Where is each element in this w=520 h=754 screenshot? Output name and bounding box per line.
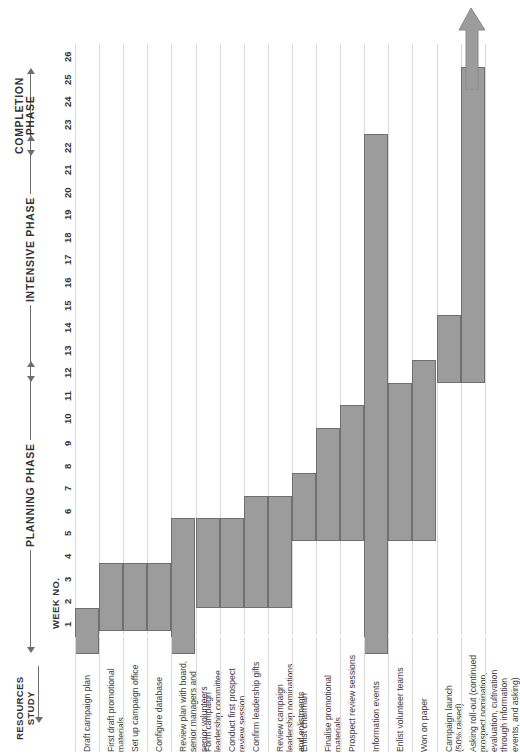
gridline [147, 44, 148, 635]
label-leader-line [268, 637, 269, 752]
task-label-line: materials [333, 640, 343, 752]
task-label: Enlist chairman [299, 640, 309, 752]
label-leader-line [364, 637, 365, 752]
task-label-line: senior managers and [189, 640, 199, 752]
gridline [340, 44, 341, 635]
task-label-line: Prospect review sessions [347, 640, 357, 752]
gantt-bar [461, 67, 485, 383]
up-arrow-icon [456, 4, 486, 90]
gantt-bar [244, 496, 268, 609]
label-leader-line [485, 637, 486, 752]
resources-study-arrow-line [38, 666, 39, 718]
label-leader-line [244, 637, 245, 752]
task-label-line: prospect nomination, [478, 640, 488, 752]
task-label-line: (50% raised) [454, 640, 464, 752]
task-label-line: through information [499, 640, 509, 752]
task-label: Information events [371, 640, 381, 752]
task-label-line: Finalise promotional [323, 640, 333, 752]
resources-study-line: RESOURCES [14, 677, 25, 740]
gantt-bar [220, 518, 244, 608]
task-label-line: Review campaign [275, 640, 285, 752]
label-leader-line [316, 637, 317, 752]
gridline [75, 44, 76, 635]
task-label-line: Enlist volunteer teams [395, 640, 405, 752]
task-label-line: Information events [371, 640, 381, 752]
task-label-line: events, and asking) [509, 640, 519, 752]
task-label-line: Campaign launch [444, 640, 454, 752]
task-label: Configure database [154, 640, 164, 752]
label-leader-line [123, 637, 124, 752]
task-label-line: Won on paper [419, 640, 429, 752]
label-leader-line [292, 637, 293, 752]
task-label-line: Set up campaign office [130, 640, 140, 752]
label-leader-line [412, 637, 413, 752]
task-label-line: First draft promotional [106, 640, 116, 752]
label-leader-line [461, 637, 462, 752]
gridline [316, 44, 317, 635]
label-leader-line [437, 637, 438, 752]
label-leader-line [196, 637, 197, 752]
label-leader-line [340, 637, 341, 752]
task-label: Enlist volunteer teams [395, 640, 405, 752]
gantt-bar [388, 383, 412, 541]
gantt-bar [196, 518, 220, 608]
label-leader-line [99, 637, 100, 752]
task-label-line: Review plan with board, [178, 640, 188, 752]
task-label-line: materials [117, 640, 127, 752]
gridline [388, 44, 389, 635]
task-label: Asking roll-out (continuedprospect nomin… [468, 640, 520, 752]
gridline [292, 44, 293, 635]
task-label: Set up campaign office [130, 640, 140, 752]
task-label: Won on paper [419, 640, 429, 752]
task-label-line: evaluation, cultivation [488, 640, 498, 752]
label-leader-line [220, 637, 221, 752]
gantt-bar [123, 563, 147, 631]
gantt-bar [171, 518, 195, 653]
gantt-bar [364, 134, 388, 653]
gridline [412, 44, 413, 635]
gantt-bar [437, 315, 461, 383]
task-label-line: Confirm leadership gifts [251, 640, 261, 752]
gridline [123, 44, 124, 635]
down-arrow-icon [35, 717, 43, 723]
task-label-line: leadership nominations [285, 640, 295, 752]
gridline [99, 44, 100, 635]
label-leader-line [147, 637, 148, 752]
task-label-line: Configure database [154, 640, 164, 752]
task-label-line: Enlist chairman [299, 640, 309, 752]
gantt-bar [292, 473, 316, 541]
task-label-line: Draft campaign plan [82, 640, 92, 752]
label-leader-line [171, 637, 172, 752]
resources-study-label: RESOURCESSTUDY [14, 677, 36, 740]
label-leader-line [388, 637, 389, 752]
gantt-bar [340, 405, 364, 540]
task-label-line: Conduct first prospect [227, 640, 237, 752]
task-label: Draft campaign plan [82, 640, 92, 752]
gantt-bar [268, 496, 292, 609]
gridline [485, 44, 486, 635]
resources-study-line: STUDY [25, 677, 36, 740]
task-label-line: review session [237, 640, 247, 752]
label-leader-line [75, 637, 76, 752]
task-label-line: Asking roll-out (continued [468, 640, 478, 752]
gantt-bar [99, 563, 123, 631]
task-label: Prospect review sessions [347, 640, 357, 752]
task-label-line: leadership committee [213, 640, 223, 752]
gantt-bar [147, 563, 171, 631]
task-label-line: Form campaign [203, 640, 213, 752]
gantt-bar [316, 428, 340, 541]
gantt-bar [412, 360, 436, 541]
task-label: Confirm leadership gifts [251, 640, 261, 752]
